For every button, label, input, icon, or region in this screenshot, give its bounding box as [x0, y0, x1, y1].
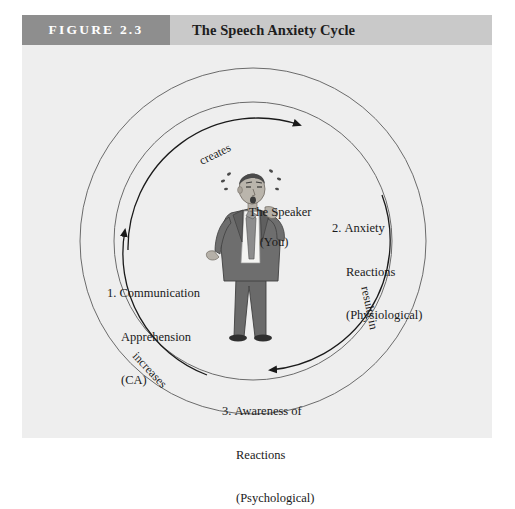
speaker-shoe-left — [229, 335, 247, 342]
node-1-line1: Communication — [120, 286, 201, 300]
node-2-line2: Reactions — [332, 265, 422, 280]
speaker-trousers — [234, 278, 266, 337]
node-3-line2: Reactions — [222, 448, 314, 463]
node-3-number: 3. — [222, 404, 231, 418]
node-3-line1: Awareness of — [235, 404, 302, 418]
center-label-line2: (You) — [214, 235, 334, 250]
node-awareness-of-reactions: 3. Awareness of Reactions (Psychological… — [222, 375, 314, 509]
node-1-number: 1. — [107, 286, 116, 300]
figure-panel: 1. Communication Apprehension (CA) 2. An… — [22, 45, 492, 438]
figure-number-box: FIGURE 2.3 — [22, 15, 170, 45]
figure-number-label: FIGURE 2.3 — [49, 22, 144, 38]
node-2-line1: Anxiety — [345, 221, 385, 235]
center-label-speaker: The Speaker (You) — [214, 190, 334, 280]
node-communication-apprehension: 1. Communication Apprehension (CA) — [107, 257, 200, 417]
figure-header: FIGURE 2.3 The Speech Anxiety Cycle — [22, 15, 492, 45]
center-label-line1: The Speaker — [249, 205, 312, 219]
node-1-line2: Apprehension — [107, 330, 200, 345]
node-3-line3: (Psychological) — [222, 491, 314, 506]
speaker-shoe-right — [254, 335, 272, 342]
figure-title: The Speech Anxiety Cycle — [192, 15, 355, 45]
